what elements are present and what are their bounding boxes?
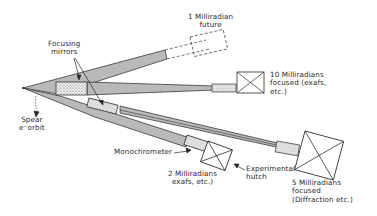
- future-label: 1 Milliradian future: [188, 13, 233, 30]
- hutch-label: Experimental hutch: [246, 165, 295, 182]
- ten-mrad-slit: [212, 84, 236, 92]
- monochrometer-arrow: [174, 148, 191, 153]
- five-mrad-slit: [275, 141, 300, 156]
- hutch-arrow: [234, 164, 245, 170]
- spear-arrow: [34, 96, 39, 117]
- source-point: [22, 87, 24, 89]
- future-beamline-dashed: [165, 40, 206, 50]
- ten-mrad-hutch: [237, 72, 264, 93]
- five-mrad-label: 5 Milliradians focused (Diffraction etc.…: [292, 179, 353, 204]
- spear-label: Spear e⁻orbit: [19, 116, 45, 133]
- ten-mrad-label: 10 Milliradians focused (exafs, etc.): [270, 71, 326, 96]
- five-mrad-hutch: [295, 131, 344, 180]
- monochrometer-label: Monochrometer: [114, 148, 172, 156]
- focusing-mirror-upper: [56, 82, 87, 95]
- future-hutch: [190, 29, 228, 56]
- focusing-mirrors-label: Focusing mirrors: [48, 40, 80, 57]
- two-mrad-label: 2 Milliradians exafs, etc.): [168, 170, 217, 187]
- ten-mrad-beam: [87, 82, 215, 95]
